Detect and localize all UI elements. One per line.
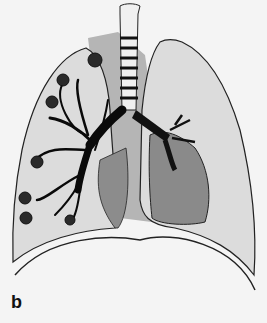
- lung-diagram: [0, 0, 267, 323]
- panel-label: b: [11, 292, 22, 313]
